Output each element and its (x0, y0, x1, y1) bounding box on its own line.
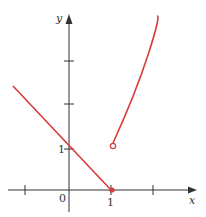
right-curve (113, 16, 158, 143)
origin-label: 0 (59, 192, 66, 205)
left-line-segment (13, 86, 111, 190)
x-axis-label: x (189, 194, 196, 207)
piecewise-function-graph: y x 0 1 1 (0, 0, 206, 217)
open-endpoint-circle (110, 143, 115, 148)
x-axis-arrow-icon (188, 187, 197, 194)
y-axis-arrow-icon (66, 14, 73, 24)
closed-endpoint-dot (109, 187, 114, 192)
x-tick-label-1: 1 (107, 196, 114, 209)
y-tick-label-1: 1 (58, 143, 65, 156)
y-axis-label: y (55, 12, 63, 25)
plot-area: y x 0 1 1 (0, 0, 206, 217)
